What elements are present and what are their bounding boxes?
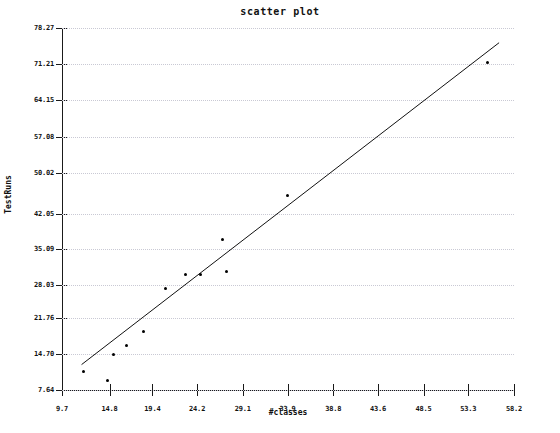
data-point	[142, 330, 145, 333]
y-tick-label: 78.27	[34, 24, 54, 32]
y-tick-label: 42.05	[34, 210, 54, 218]
y-tick-label: 21.76	[34, 314, 54, 322]
y-tick-label: 71.21	[34, 60, 54, 68]
gridline-y	[62, 390, 514, 391]
fit-line-segment	[82, 43, 500, 365]
x-axis-title: #classes	[62, 408, 514, 417]
x-tick-mark	[514, 384, 515, 396]
data-point	[221, 238, 224, 241]
y-tick-label: 28.03	[34, 281, 54, 289]
regression-line	[62, 28, 514, 390]
y-tick-label: 7.64	[38, 386, 54, 394]
y-tick-label: 35.09	[34, 245, 54, 253]
data-point	[125, 344, 128, 347]
y-tick-label: 64.15	[34, 96, 54, 104]
scatter-plot-figure: scatter plot TestRuns 7.6414.7021.7628.0…	[0, 0, 560, 433]
y-axis-title: TestRuns	[4, 165, 13, 225]
y-tick-label: 14.70	[34, 350, 54, 358]
data-point	[286, 194, 289, 197]
plot-area	[62, 28, 514, 390]
chart-title: scatter plot	[0, 6, 560, 17]
y-tick-label: 57.08	[34, 133, 54, 141]
y-tick-label: 50.02	[34, 169, 54, 177]
